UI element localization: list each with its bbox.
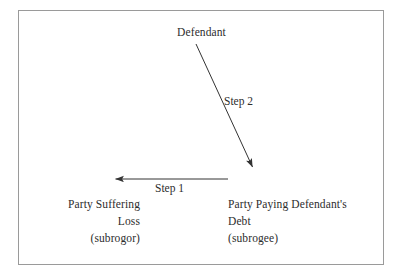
node-defendant-label: Defendant <box>177 26 226 38</box>
diagram-canvas: Defendant Step 2 Step 1 Party Suffering … <box>0 0 403 280</box>
subrogee-line-2: Debt <box>228 213 388 230</box>
node-subrogee: Party Paying Defendant's Debt (subrogee) <box>228 196 388 247</box>
subrogor-line-3: (subrogor) <box>16 230 140 247</box>
edge-label-step1: Step 1 <box>155 181 184 195</box>
node-subrogor: Party Suffering Loss (subrogor) <box>16 196 140 247</box>
step1-text: Step 1 <box>155 182 184 194</box>
subrogor-line-2: Loss <box>16 213 140 230</box>
subrogee-line-3: (subrogee) <box>228 230 388 247</box>
step2-text: Step 2 <box>224 95 253 107</box>
subrogor-line-1: Party Suffering <box>16 196 140 213</box>
node-defendant: Defendant <box>0 24 403 41</box>
subrogee-line-1: Party Paying Defendant's <box>228 196 388 213</box>
edge-label-step2: Step 2 <box>224 94 253 108</box>
